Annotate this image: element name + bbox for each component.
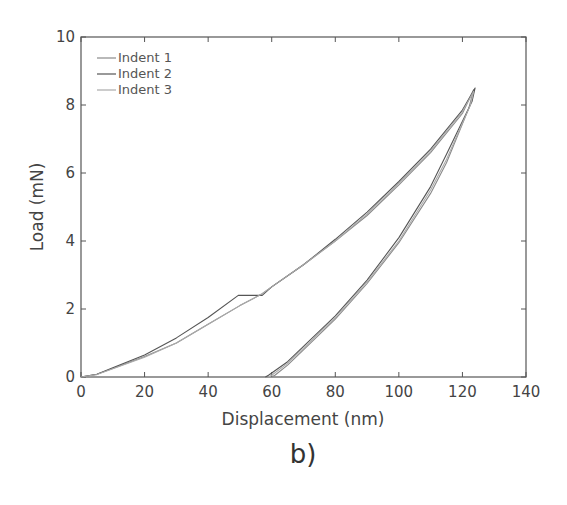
y-tick-label: 10: [56, 28, 75, 46]
x-axis-title: Displacement (nm): [222, 409, 385, 429]
x-tick-label: 120: [448, 383, 477, 401]
y-tick-label: 8: [65, 96, 75, 114]
x-tick-label: 40: [199, 383, 218, 401]
y-tick-label: 0: [65, 368, 75, 386]
series-line: [81, 91, 474, 377]
nanoindentation-chart: 020406080100120140 0246810 Indent 1Inden…: [0, 0, 567, 505]
data-series: [81, 88, 475, 377]
y-tick-label: 2: [65, 300, 75, 318]
x-tick-label: 100: [385, 383, 414, 401]
legend: Indent 1Indent 2Indent 3: [97, 50, 172, 97]
x-tick-label: 80: [326, 383, 345, 401]
panel-label: b): [290, 439, 317, 469]
series-line: [81, 88, 475, 377]
legend-label: Indent 2: [118, 66, 172, 81]
y-tick-label: 6: [65, 164, 75, 182]
y-tick-label: 4: [65, 232, 75, 250]
legend-label: Indent 1: [118, 50, 172, 65]
x-tick-label: 60: [262, 383, 281, 401]
x-tick-label: 140: [512, 383, 541, 401]
series-line: [81, 90, 474, 377]
x-tick-label: 20: [135, 383, 154, 401]
y-axis-title: Load (mN): [27, 163, 47, 252]
x-tick-label: 0: [76, 383, 86, 401]
legend-label: Indent 3: [118, 82, 172, 97]
